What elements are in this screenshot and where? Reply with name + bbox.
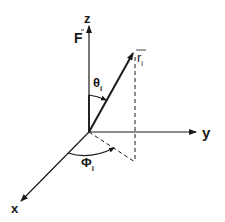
force-label: F — [74, 30, 83, 46]
xy-plane-projection-line — [89, 132, 135, 162]
z-axis-label: z — [84, 11, 91, 26]
position-vector-label: ri — [137, 50, 143, 68]
position-vector-subscript: i — [141, 59, 143, 68]
phi-label: Φi — [81, 155, 94, 173]
phi-subscript: i — [92, 164, 94, 173]
theta-angle-arc — [89, 95, 106, 100]
x-axis-label: x — [11, 201, 18, 216]
y-axis-label: y — [202, 124, 210, 141]
theta-subscript: i — [100, 84, 102, 93]
phi-symbol: Φ — [81, 155, 92, 170]
theta-label: θi — [93, 75, 102, 93]
x-axis — [21, 132, 89, 201]
spherical-coordinate-diagram — [0, 0, 225, 222]
theta-symbol: θ — [93, 75, 100, 90]
